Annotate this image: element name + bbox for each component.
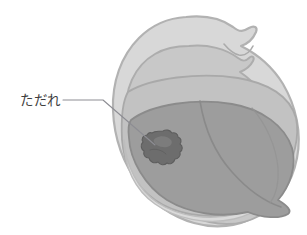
illustration-canvas: ただれ: [0, 0, 307, 235]
mouth-illustration-svg: ただれ: [0, 0, 307, 235]
annotation-label-tadare: ただれ: [20, 92, 61, 108]
